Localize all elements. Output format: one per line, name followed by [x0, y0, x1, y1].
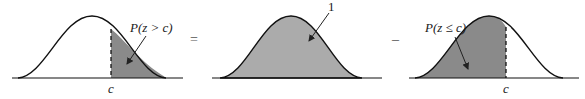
label-one: 1 — [328, 0, 335, 14]
panel-total: 1 — [212, 0, 382, 78]
normal-area-identity-diagram: P(z > c) c = 1 – P(z ≤ c) c — [0, 0, 585, 99]
axis-label-c: c — [108, 81, 114, 96]
panel-right-tail: P(z > c) c — [12, 16, 183, 96]
axis-label-c: c — [503, 81, 509, 96]
label-p-z-greater-c: P(z > c) — [129, 20, 173, 35]
label-p-z-leq-c: P(z ≤ c) — [424, 20, 466, 35]
panel-left-cumulative: P(z ≤ c) c — [409, 16, 579, 96]
shaded-right-tail — [111, 29, 165, 78]
equals-sign: = — [190, 32, 198, 47]
minus-sign: – — [391, 32, 400, 47]
shaded-total-area — [220, 16, 362, 78]
